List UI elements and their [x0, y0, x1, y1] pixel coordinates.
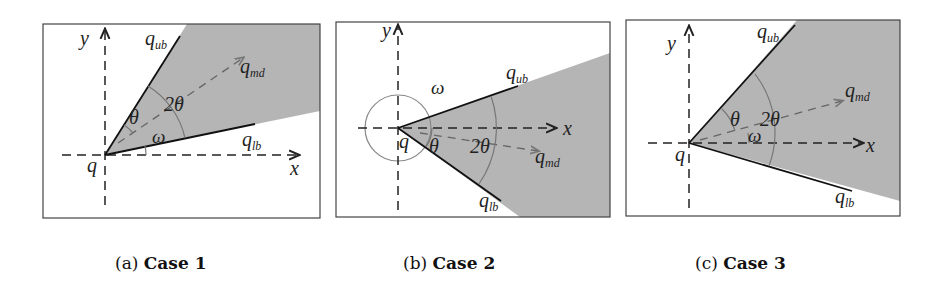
caption-title: Case 2: [433, 253, 496, 273]
q-lb-label: qlb: [835, 185, 854, 210]
theta-label: θ: [730, 108, 740, 130]
caption-prefix: (c): [695, 253, 718, 273]
omega-label: ω: [748, 125, 761, 146]
omega-label: ω: [152, 126, 165, 147]
caption-case-3: (c) Case 3: [695, 253, 786, 273]
caption-prefix: (a): [115, 253, 138, 273]
theta-label: θ: [429, 135, 439, 157]
y-axis-label: y: [665, 32, 676, 55]
theta-label: θ: [129, 106, 139, 128]
q-ub-label: qub: [757, 20, 779, 45]
origin-label: q: [87, 154, 97, 177]
omega-label: ω: [431, 77, 444, 98]
origin-label: q: [675, 143, 685, 166]
y-axis-label: y: [78, 27, 89, 50]
x-axis-label: x: [865, 134, 875, 156]
q-ub-label: qub: [145, 27, 167, 52]
two-theta-label: 2θ: [164, 93, 184, 115]
caption-prefix: (b): [403, 253, 427, 273]
x-axis-label: x: [289, 157, 299, 179]
omega-arc: [145, 146, 146, 155]
x-axis-label: x: [562, 117, 572, 139]
feasible-region-shade: [105, 24, 320, 155]
two-theta-label: 2θ: [760, 108, 780, 130]
panel-case-3: y x q qub qmd qlb θ 2θ ω: [626, 20, 900, 216]
caption-case-2: (b) Case 2: [403, 253, 495, 273]
panel-case-1: y x q qub qmd qlb θ 2θ ω: [43, 24, 320, 218]
two-theta-label: 2θ: [470, 135, 490, 157]
q-ub-label: qub: [506, 61, 528, 86]
origin-label: q: [399, 130, 409, 153]
panel-case-2: y x q qub qmd qlb θ 2θ ω: [336, 19, 610, 217]
q-lb-label: qlb: [242, 128, 261, 153]
caption-case-1: (a) Case 1: [115, 253, 207, 273]
caption-title: Case 1: [144, 253, 207, 273]
caption-title: Case 3: [723, 253, 786, 273]
y-axis-label: y: [380, 19, 391, 42]
